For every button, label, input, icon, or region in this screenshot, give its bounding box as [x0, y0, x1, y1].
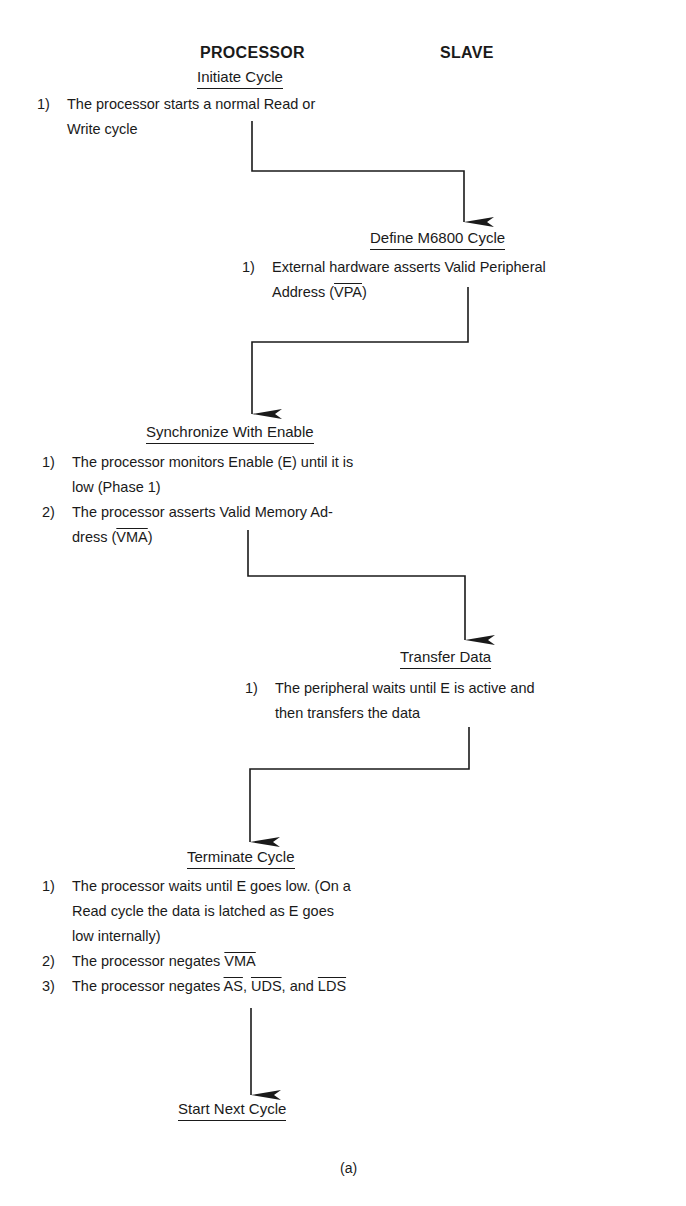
arrow-define-to-synchronize [252, 287, 468, 414]
arrow-initiate-to-define [252, 121, 464, 222]
arrow-transfer-to-terminate [250, 727, 469, 842]
flow-connectors [0, 0, 686, 1206]
arrow-synchronize-to-transfer [248, 530, 465, 640]
